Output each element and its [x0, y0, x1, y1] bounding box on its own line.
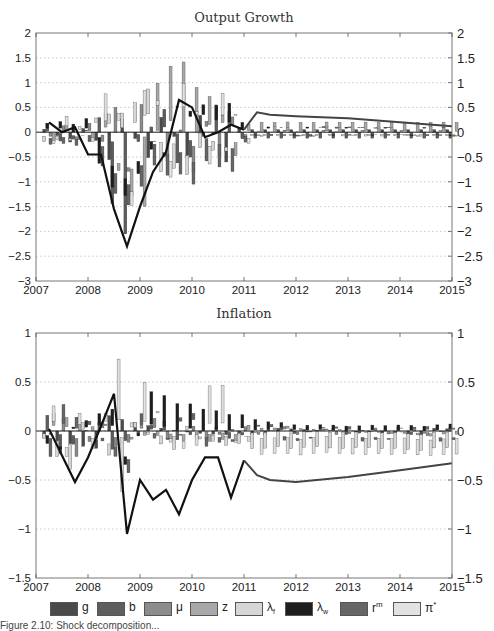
bar-lambda_f — [186, 426, 189, 429]
bar-lambda_w — [345, 426, 348, 431]
bar-lambda_f — [381, 135, 384, 136]
bar-r_m — [309, 437, 312, 438]
bar-mu — [140, 104, 143, 132]
bar-g — [225, 431, 228, 435]
bar-pi_star — [364, 135, 367, 136]
bar-lambda_f — [173, 437, 176, 450]
bar-z — [299, 122, 302, 131]
bar-lambda_w — [150, 392, 153, 425]
bar-g — [108, 132, 111, 159]
bar-r_m — [335, 427, 338, 428]
bar-b — [397, 132, 400, 138]
bar-z — [377, 122, 380, 131]
bar-b — [111, 431, 114, 449]
bar-mu — [153, 418, 156, 427]
bar-lambda_f — [420, 435, 423, 451]
x-tick: 2009 — [127, 284, 153, 296]
x-tick: 2015 — [439, 581, 465, 593]
bar-lambda_f — [264, 135, 267, 136]
y-tick-left: 1.5 — [15, 52, 31, 64]
bar-lambda_f — [446, 134, 449, 135]
bar-b — [137, 134, 140, 141]
bar-lambda_w — [189, 111, 192, 116]
bar-mu — [361, 130, 364, 131]
bar-lambda_f — [251, 433, 254, 449]
bar-r_m — [231, 149, 234, 172]
actual-line — [49, 100, 244, 246]
bar-r_m — [49, 138, 52, 144]
bar-lambda_f — [394, 433, 397, 449]
bar-lambda_f — [290, 134, 293, 135]
bar-lambda_w — [137, 433, 140, 436]
bar-r_m — [426, 135, 429, 136]
bar-lambda_w — [293, 135, 296, 136]
bar-r_m — [439, 438, 442, 441]
bar-pi_star — [65, 116, 68, 126]
y-tick-left: 1 — [25, 77, 31, 89]
legend: gbμzλfλwrmπ* — [0, 599, 494, 619]
y-tick-right: 0.5 — [457, 100, 475, 115]
bar-b — [85, 130, 88, 131]
y-tick-left: −0.5 — [8, 151, 31, 163]
bar-lambda_w — [306, 425, 309, 430]
bar-pi_star — [364, 439, 367, 455]
bar-b — [46, 415, 49, 431]
y-tick-right: −1.5 — [457, 200, 483, 215]
output-growth-panel: Output Growth221.51.5110.50.500−0.5−0.5−… — [8, 10, 482, 296]
bar-lambda_w — [176, 404, 179, 431]
y-tick-left: −1.5 — [8, 201, 31, 213]
bar-z — [156, 83, 159, 130]
bar-mu — [179, 434, 182, 435]
bar-r_m — [114, 448, 117, 457]
x-tick: 2014 — [387, 581, 413, 593]
bar-z — [234, 143, 237, 156]
bar-lambda_f — [173, 144, 176, 168]
bar-b — [72, 136, 75, 139]
bar-pi_star — [117, 114, 120, 121]
bar-g — [108, 416, 111, 431]
bar-pi_star — [78, 127, 81, 130]
bar-pi_star — [208, 146, 211, 164]
bar-lambda_w — [332, 425, 335, 430]
bar-lambda_f — [407, 434, 410, 450]
bar-lambda_f — [238, 433, 241, 443]
bar-z — [312, 429, 315, 430]
y-tick-right: 1.5 — [457, 51, 475, 66]
y-tick-left: −1 — [18, 523, 31, 535]
bar-lambda_w — [423, 127, 426, 128]
bar-pi_star — [338, 438, 341, 454]
bar-z — [208, 435, 211, 442]
bar-pi_star — [429, 127, 432, 128]
bar-z — [260, 122, 263, 131]
x-tick: 2012 — [283, 581, 309, 593]
bar-z — [273, 428, 276, 430]
bar-z — [78, 425, 81, 431]
bar-lambda_f — [381, 433, 384, 449]
bar-g — [69, 431, 72, 444]
legend-label: λw — [317, 600, 328, 615]
y-tick-right: 2 — [457, 26, 464, 41]
bar-pi_star — [325, 436, 328, 452]
y-tick-right: 0.5 — [457, 375, 475, 390]
x-tick: 2011 — [232, 284, 257, 296]
bar-pi_star — [299, 135, 302, 136]
bar-r_m — [361, 127, 364, 128]
bar-b — [150, 127, 153, 132]
bar-lambda_w — [137, 161, 140, 174]
legend-swatch — [144, 602, 172, 616]
bar-pi_star — [247, 437, 250, 441]
bar-b — [423, 132, 426, 138]
bar-lambda_w — [46, 123, 49, 128]
bar-b — [358, 132, 361, 138]
bar-b — [384, 132, 387, 138]
bar-pi_star — [286, 438, 289, 454]
bar-lambda_w — [254, 135, 257, 136]
y-tick-left: −0.5 — [8, 474, 31, 486]
bar-b — [410, 432, 413, 434]
x-tick: 2009 — [127, 581, 153, 593]
inflation-panel: Inflation110.50.500−0.5−0.5−1−1−1.5−1.52… — [8, 306, 482, 593]
bar-lambda_w — [163, 395, 166, 426]
bar-mu — [283, 427, 286, 429]
bar-pi_star — [52, 406, 55, 421]
